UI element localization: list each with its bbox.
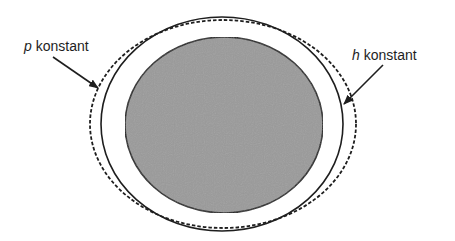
core-filled-ellipse	[125, 37, 323, 213]
p-konstant-arrow	[53, 57, 98, 88]
p-konstant-label: p konstant	[24, 38, 89, 54]
ellipse-diagram	[0, 0, 455, 241]
h-variable: h	[352, 47, 360, 63]
h-konstant-label: h konstant	[352, 47, 417, 63]
h-label-text: konstant	[360, 47, 417, 63]
p-label-text: konstant	[32, 38, 89, 54]
h-konstant-arrow	[344, 65, 383, 104]
p-variable: p	[24, 38, 32, 54]
